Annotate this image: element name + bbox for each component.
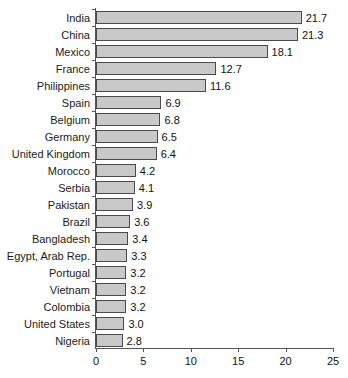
bar (96, 62, 216, 75)
bar (96, 164, 136, 177)
bar (96, 147, 157, 160)
bar-value-label: 3.9 (137, 199, 152, 211)
y-axis-tick (92, 196, 96, 197)
bar (96, 113, 160, 126)
category-label: Colombia (44, 301, 90, 313)
category-label: Belgium (50, 114, 90, 126)
bar (96, 96, 161, 109)
bar-row: Serbia4.1 (96, 179, 333, 197)
bar-value-label: 21.7 (306, 12, 327, 24)
bar-value-label: 12.7 (220, 63, 241, 75)
bar-row: Belgium6.8 (96, 111, 333, 129)
category-label: United Kingdom (12, 148, 90, 160)
category-label: China (61, 29, 90, 41)
category-label: Egypt, Arab Rep. (7, 250, 90, 262)
category-label: Portugal (49, 267, 90, 279)
y-axis-tick (92, 9, 96, 10)
bar-row: Spain6.9 (96, 94, 333, 112)
bar (96, 11, 302, 24)
bar-row: Colombia3.2 (96, 298, 333, 316)
bar (96, 266, 126, 279)
y-axis-tick (92, 94, 96, 95)
bar-value-label: 6.8 (164, 114, 179, 126)
category-label: Morocco (48, 165, 90, 177)
bar-value-label: 2.8 (127, 335, 142, 347)
plot-area: India21.7China21.3Mexico18.1France12.7Ph… (96, 9, 333, 348)
x-axis-tick (333, 348, 334, 352)
bar-row: Morocco4.2 (96, 162, 333, 180)
category-label: India (66, 12, 90, 24)
y-axis-tick (92, 332, 96, 333)
x-axis-tick-label: 10 (185, 355, 197, 368)
bar (96, 45, 268, 58)
bar-row: Mexico18.1 (96, 43, 333, 61)
category-label: Brazil (62, 216, 90, 228)
bar-chart: India21.7China21.3Mexico18.1France12.7Ph… (0, 0, 348, 378)
bar-row: France12.7 (96, 60, 333, 78)
bar-row: Bangladesh3.4 (96, 230, 333, 248)
bar-value-label: 6.4 (161, 148, 176, 160)
x-axis-tick-label: 15 (232, 355, 244, 368)
bar (96, 232, 128, 245)
x-axis-tick-label: 20 (279, 355, 291, 368)
bar (96, 181, 135, 194)
bar (96, 28, 298, 41)
bar (96, 79, 206, 92)
category-label: Spain (62, 97, 90, 109)
category-label: Vietnam (50, 284, 90, 296)
bar-value-label: 3.4 (132, 233, 147, 245)
bar (96, 283, 126, 296)
bar-value-label: 18.1 (272, 46, 293, 58)
y-axis-tick (92, 230, 96, 231)
category-label: Nigeria (55, 335, 90, 347)
x-axis-tick-label: 0 (93, 355, 99, 368)
y-axis-tick (92, 281, 96, 282)
bar-row: Vietnam3.2 (96, 281, 333, 299)
x-axis-tick (96, 348, 97, 352)
bar (96, 215, 130, 228)
y-axis-tick (92, 111, 96, 112)
bar-row: Egypt, Arab Rep.3.3 (96, 247, 333, 265)
bar-value-label: 6.5 (162, 131, 177, 143)
bar (96, 130, 158, 143)
bar-row: Germany6.5 (96, 128, 333, 146)
y-axis-tick (92, 315, 96, 316)
bar-value-label: 21.3 (302, 29, 323, 41)
category-label: Serbia (58, 182, 90, 194)
bar (96, 300, 126, 313)
bar (96, 334, 123, 347)
bar-row: Pakistan3.9 (96, 196, 333, 214)
y-axis-tick (92, 162, 96, 163)
bar-value-label: 3.2 (130, 284, 145, 296)
category-label: Mexico (55, 46, 90, 58)
bar-row: Brazil3.6 (96, 213, 333, 231)
bar (96, 317, 124, 330)
x-axis-tick (143, 348, 144, 352)
bar-row: Portugal3.2 (96, 264, 333, 282)
y-axis-tick (92, 26, 96, 27)
bar-row: Nigeria2.8 (96, 332, 333, 350)
x-axis-tick-label: 5 (140, 355, 146, 368)
bar-value-label: 3.2 (130, 301, 145, 313)
y-axis-tick (92, 77, 96, 78)
x-axis-tick (191, 348, 192, 352)
bar-value-label: 4.2 (140, 165, 155, 177)
bar-value-label: 6.9 (165, 97, 180, 109)
category-label: Philippines (37, 80, 90, 92)
bar-value-label: 3.6 (134, 216, 149, 228)
x-axis-tick (286, 348, 287, 352)
bar-row: China21.3 (96, 26, 333, 44)
bar-value-label: 3.3 (131, 250, 146, 262)
bar-row: Philippines11.6 (96, 77, 333, 95)
x-axis-tick-label: 25 (327, 355, 339, 368)
category-label: Germany (45, 131, 90, 143)
bar-row: United Kingdom6.4 (96, 145, 333, 163)
category-label: Bangladesh (32, 233, 90, 245)
y-axis-tick (92, 179, 96, 180)
bar-value-label: 3.2 (130, 267, 145, 279)
category-label: France (56, 63, 90, 75)
x-axis-tick (238, 348, 239, 352)
y-axis-tick (92, 247, 96, 248)
bar-value-label: 4.1 (139, 182, 154, 194)
y-axis-tick (92, 213, 96, 214)
